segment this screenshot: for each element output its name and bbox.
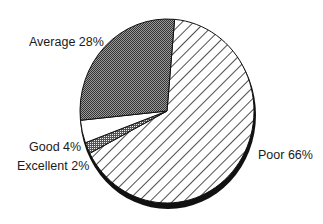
pie-chart <box>0 0 323 224</box>
label-average: Average 28% <box>29 36 104 49</box>
label-good: Good 4% <box>29 141 81 154</box>
label-poor: Poor 66% <box>258 149 313 162</box>
label-excellent: Excellent 2% <box>17 160 89 173</box>
pie-slices <box>80 19 254 203</box>
